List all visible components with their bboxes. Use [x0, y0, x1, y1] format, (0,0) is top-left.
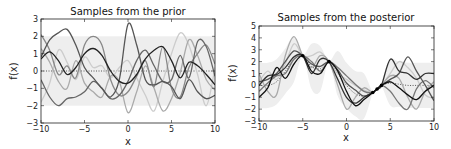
y-tick-label: −3 — [244, 117, 256, 126]
y-tick-label: 2 — [33, 32, 38, 41]
y-axis-label: f(x) — [8, 62, 19, 79]
chart-title: Samples from the posterior — [278, 12, 416, 23]
x-tick-label: 5 — [388, 123, 393, 132]
x-tick-label: 5 — [169, 125, 174, 134]
plot-area: −10−50510−3−2−10123 — [26, 15, 220, 134]
prior-plot: Samples from the prior x f(x) −10−50510−… — [0, 0, 225, 149]
y-tick-label: 4 — [251, 34, 256, 43]
observation-point — [301, 54, 305, 58]
posterior-chart: Samples from the posterior x f(x) −10−50… — [225, 0, 451, 149]
x-tick-label: 0 — [344, 123, 349, 132]
observation-point — [371, 91, 375, 95]
x-axis-label: x — [125, 136, 131, 147]
y-tick-label: 3 — [33, 15, 38, 24]
y-tick-label: −1 — [244, 93, 256, 102]
y-tick-label: −2 — [244, 105, 256, 114]
y-tick-label: 3 — [251, 46, 256, 55]
y-tick-label: −2 — [26, 102, 38, 111]
plot-area: −10−50510−3−2−1012345 — [244, 22, 439, 132]
x-tick-label: 10 — [429, 123, 439, 132]
x-tick-label: −5 — [297, 123, 309, 132]
observation-point — [380, 84, 384, 88]
y-tick-label: −1 — [26, 84, 38, 93]
y-tick-label: 0 — [33, 67, 38, 76]
posterior-plot: Samples from the posterior x f(x) −10−50… — [225, 0, 451, 149]
y-tick-label: 0 — [251, 81, 256, 90]
y-tick-label: 2 — [251, 58, 256, 67]
x-tick-label: −5 — [79, 125, 91, 134]
observation-point — [375, 87, 379, 91]
x-axis-label: x — [343, 132, 349, 143]
x-tick-label: 10 — [210, 125, 220, 134]
y-tick-label: 1 — [251, 70, 256, 79]
prior-chart: Samples from the prior x f(x) −10−50510−… — [0, 0, 225, 149]
chart-title: Samples from the prior — [70, 6, 186, 17]
y-tick-label: 1 — [33, 50, 38, 59]
y-axis-label: f(x) — [227, 64, 238, 81]
y-tick-label: −3 — [26, 119, 38, 128]
x-tick-label: 0 — [125, 125, 130, 134]
y-tick-label: 5 — [251, 22, 256, 31]
observation-point — [327, 60, 331, 64]
